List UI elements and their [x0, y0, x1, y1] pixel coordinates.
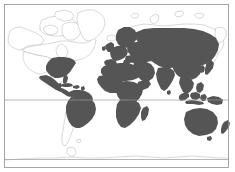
world-map-figure [0, 0, 235, 172]
landmass-iceland [107, 35, 116, 41]
world-map-canvas [0, 0, 235, 172]
